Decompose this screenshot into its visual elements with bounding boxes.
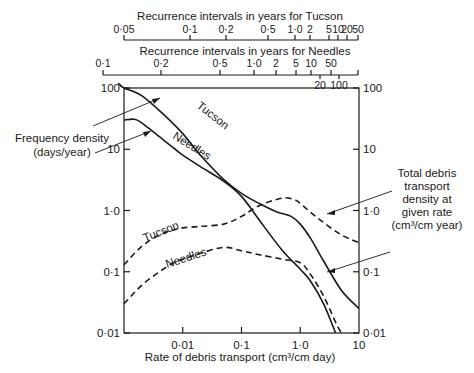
y-tick-label-left: 10	[107, 143, 120, 155]
y-tick-label-right: 0·1	[363, 266, 380, 278]
needles-axis-tick-label: 0·2	[153, 57, 168, 69]
needles-axis-tick-label: 20	[314, 79, 326, 91]
y-tick-label-left: 1·0	[103, 205, 120, 217]
needles-axis-tick-label: 50	[325, 57, 337, 69]
needles-axis-tick-label: 0·1	[95, 57, 110, 69]
curve-label: Tucson	[141, 219, 180, 244]
needles-axis-tick-label: 10	[305, 57, 317, 69]
tucson-axis-title: Recurrence intervals in years for Tucson	[137, 10, 343, 22]
needles-axis-title: Recurrence intervals in years for Needle…	[140, 45, 351, 57]
arrowhead-icon	[327, 210, 335, 215]
frequency-density-label: Frequency density	[15, 132, 109, 144]
needles-axis-tick-label: 1·0	[246, 57, 261, 69]
debris-density-label-line: (cm³/cm year)	[392, 219, 463, 231]
x-tick-label: 0·1	[233, 339, 250, 351]
tucson-axis-tick-label: 0·05	[113, 23, 134, 35]
curve-label: Needles	[171, 130, 213, 163]
leader-line	[93, 98, 160, 126]
plot-frame	[124, 88, 359, 333]
x-tick-label: 0·01	[171, 339, 194, 351]
tucson-axis-tick-label: 1·0	[287, 23, 302, 35]
right-annotation: Total debristransportdensity atgiven rat…	[327, 167, 463, 273]
needles-axis-tick-label: 100	[330, 79, 348, 91]
tucson-axis-tick-label: 50	[352, 23, 364, 35]
y-tick-label-right: 10	[363, 143, 376, 155]
x-tick-label: 1·0	[292, 339, 309, 351]
top-axes: Recurrence intervals in years for Tucson…	[95, 10, 364, 91]
left-annotation: Frequency density (days/year)	[15, 98, 160, 158]
plot-area-border	[124, 88, 359, 333]
x-axis-label: Rate of debris transport (cm³/cm day)	[145, 351, 336, 363]
debris-density-label-line: Total debris	[398, 167, 457, 179]
curve-label: Needles	[164, 245, 208, 270]
curve-label: Tucson	[195, 99, 232, 131]
frequency-density-unit: (days/year)	[33, 146, 91, 158]
arrowhead-icon	[152, 98, 160, 104]
needles-debris-transport-curve	[124, 247, 341, 333]
chart: Recurrence intervals in years for Tucson…	[0, 0, 474, 373]
needles-axis-tick-label: 5	[293, 57, 299, 69]
needles-axis-tick-label: 0·5	[212, 57, 227, 69]
y-tick-label-left: 0·01	[97, 327, 120, 339]
curve-labels: TucsonNeedlesTucsonNeedles	[141, 99, 231, 270]
debris-density-label-line: density at	[402, 193, 452, 205]
curves	[118, 83, 359, 333]
y-tick-label-left: 0·1	[103, 266, 120, 278]
debris-density-label-line: given rate	[402, 206, 453, 218]
x-tick-label: 10	[353, 339, 366, 351]
arrowhead-icon	[143, 131, 151, 137]
y-tick-label-left: 100	[101, 82, 120, 94]
debris-density-label-line: transport	[404, 180, 450, 192]
tucson-axis-tick-label: 0·2	[218, 23, 233, 35]
needles-axis-tick-label: 2	[273, 57, 279, 69]
y-tick-label-right: 100	[363, 82, 382, 94]
y-tick-label-right: 1·0	[363, 205, 380, 217]
tucson-axis-tick-label: 2	[307, 23, 313, 35]
tucson-axis-tick-label: 0·5	[260, 23, 275, 35]
tucson-axis-tick-label: 0·1	[182, 23, 197, 35]
y-tick-label-right: 0·01	[363, 327, 386, 339]
